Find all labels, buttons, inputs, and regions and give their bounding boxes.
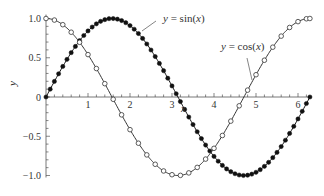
cos-marker [212,146,217,151]
sin-marker [149,48,153,52]
sin-marker [111,16,115,20]
cos-marker [52,18,57,23]
sin-marker [195,130,199,134]
cos-marker [94,66,99,71]
sin-marker [204,143,208,147]
y-tick-label: 0 [36,92,41,103]
sin-marker [128,24,132,28]
y-tick-label: 1.0 [29,13,42,24]
sin-marker [82,33,86,37]
sin-marker [48,87,52,91]
cos-marker [136,141,141,146]
sin-marker [271,156,275,160]
cos-marker [178,173,183,178]
cos-marker [44,16,49,21]
x-tick-label: 3 [170,99,175,110]
cos-marker [229,119,234,124]
y-axis-label: y [6,81,18,87]
cos-marker [161,169,166,174]
sin-marker [99,19,103,23]
y-tick-label: −0.5 [23,131,41,142]
cos-marker [111,97,116,102]
sin-marker [145,42,149,46]
sin-marker [304,101,308,105]
sin-marker [44,95,48,99]
sin-marker [73,44,77,48]
sin-marker [157,61,161,65]
sin-marker [115,17,119,21]
sin-marker [279,144,283,148]
cos-marker [119,113,124,118]
sin-marker [267,160,271,164]
sin-marker [162,69,166,73]
sin-marker [120,18,124,22]
sin-marker [296,117,300,121]
cos-marker [245,88,250,93]
x-tick-label: 4 [212,99,217,110]
sin-marker [308,95,312,99]
cos-marker [69,30,74,35]
sin-marker [57,72,61,76]
sin-marker [136,31,140,35]
x-tick-label: 5 [254,99,259,110]
cos-marker [279,34,284,39]
sin-marker [124,21,128,25]
cos-marker [86,52,91,57]
sin-marker [187,115,191,119]
sin-marker [237,173,241,177]
sin-marker [107,17,111,21]
cos-marker [103,81,108,86]
sin-marker [262,164,266,168]
sin-marker [174,92,178,96]
x-tick-label: 1 [86,99,91,110]
sin-marker [191,122,195,126]
sin-marker [86,29,90,33]
sin-marker [246,173,250,177]
sin-marker [212,154,216,158]
sin-cos-chart: 123456−1.0−0.500.51.0 x y y = sin(x) y =… [0,0,324,196]
sin-marker [220,163,224,167]
cos-marker [187,171,192,176]
sin-marker [90,25,94,29]
sin-marker [283,138,287,142]
sin-marker [61,64,65,68]
cos-marker [128,127,133,132]
cos-marker [220,133,225,138]
cos-leader-line [247,58,252,80]
sin-marker [52,79,56,83]
sin-marker [199,136,203,140]
sin-marker [254,170,258,174]
sin-marker [233,172,237,176]
sin-marker [258,168,262,172]
sin-marker [225,167,229,171]
sin-marker [166,76,170,80]
sin-marker [94,22,98,26]
sin-marker [153,54,157,58]
cos-marker [153,162,158,167]
cos-marker [308,16,313,21]
sin-marker [300,109,304,113]
cos-marker [271,45,276,50]
sin-marker [288,131,292,135]
cos-marker [237,104,242,109]
cos-marker [262,58,267,63]
sin-marker [216,159,220,163]
cos-marker [77,40,82,45]
x-tick-label: 2 [128,99,133,110]
cos-label: y = cos(x) [220,40,265,53]
y-tick-label: 0.5 [29,52,42,63]
sin-annotation: y = sin(x) [142,12,205,31]
axes: 123456−1.0−0.500.51.0 [23,13,312,181]
sin-marker [141,36,145,40]
cos-marker [170,172,175,177]
cos-marker [296,19,301,24]
cos-marker [61,22,66,27]
cos-marker [203,157,208,162]
sin-marker [132,27,136,31]
sin-marker [69,51,73,55]
cos-marker [195,165,200,170]
sin-marker [229,170,233,174]
sin-label: y = sin(x) [162,12,205,25]
x-axis-label: x [180,102,186,114]
sin-leader-line [142,21,156,31]
